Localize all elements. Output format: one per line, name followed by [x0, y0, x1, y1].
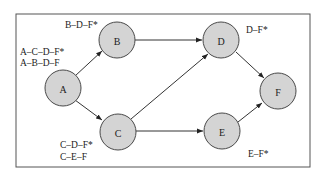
edge-D-F [236, 52, 264, 78]
edge-A-B [75, 51, 102, 76]
edge-E-F [238, 103, 262, 122]
node-label: E [219, 127, 225, 138]
path-label-C-1: C–D–F* [60, 140, 93, 150]
network-diagram: A B C D E F B–D–F* A–C–D–F* A–B–D–F C–D–… [0, 0, 323, 177]
path-label-E-1: E–F* [248, 149, 269, 159]
node-label: C [115, 128, 122, 139]
node-label: F [275, 87, 281, 98]
path-label-A-2: A–B–D–F [20, 58, 60, 68]
node-E: E [204, 113, 240, 149]
node-F: F [260, 73, 296, 109]
edge-A-C [75, 100, 102, 120]
path-label-C-2: C–E–F [60, 152, 87, 162]
node-B: B [99, 22, 135, 58]
path-label-D-1: D–F* [246, 25, 268, 35]
node-label: D [217, 36, 224, 47]
node-C: C [100, 114, 136, 150]
node-label: B [114, 36, 121, 47]
path-label-A-1: A–C–D–F* [20, 47, 65, 57]
node-A: A [45, 70, 81, 106]
node-label: A [59, 84, 67, 95]
path-label-B-1: B–D–F* [65, 20, 98, 30]
edge-C-D [131, 54, 208, 119]
node-D: D [203, 22, 239, 58]
